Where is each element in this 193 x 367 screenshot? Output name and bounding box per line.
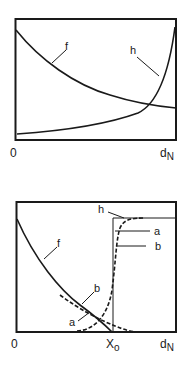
top-origin-label: 0: [10, 146, 17, 160]
bottom-leader-f: [44, 247, 57, 259]
top-leader-f: [52, 50, 66, 63]
top-end-label: dN: [160, 146, 174, 162]
top-label-h: h: [130, 44, 136, 56]
figure: f h 0 dN h a b f b a: [0, 0, 193, 367]
top-leader-h: [137, 57, 159, 76]
bottom-label-a-falling: a: [69, 316, 76, 328]
bottom-leader-b-falling: [82, 292, 94, 304]
bottom-label-b-rising: b: [155, 240, 161, 252]
top-frame: [16, 19, 177, 140]
top-panel: f h 0 dN: [10, 19, 176, 162]
bottom-leader-a-falling: [78, 312, 90, 321]
bottom-x0-label: Xo: [106, 337, 120, 353]
bottom-origin-label: 0: [11, 337, 18, 351]
bottom-panel: h a b f b a 0 Xo dN: [11, 202, 176, 353]
top-curve-f: [16, 30, 176, 108]
bottom-curve-f: [17, 219, 112, 332]
bottom-frame: [17, 202, 177, 332]
bottom-end-label: dN: [160, 337, 174, 353]
bottom-label-a-rising: a: [154, 225, 161, 237]
bottom-label-f: f: [57, 237, 61, 249]
bottom-label-h: h: [98, 203, 104, 215]
top-label-f: f: [65, 40, 69, 52]
bottom-leader-h: [108, 212, 124, 218]
top-curve-h: [17, 27, 175, 134]
bottom-label-b-falling: b: [94, 282, 100, 294]
